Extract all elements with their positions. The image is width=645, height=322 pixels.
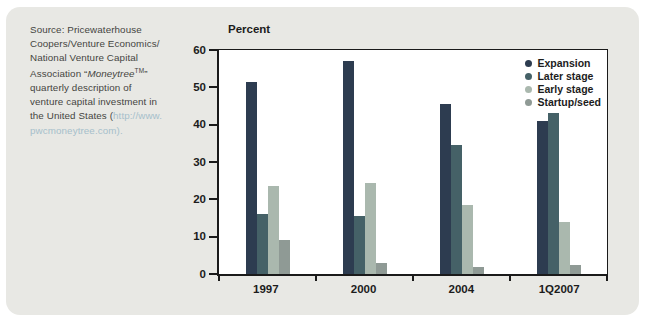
y-tick	[209, 198, 217, 200]
source-text-segment: Source: Pricewaterhouse	[30, 24, 142, 35]
legend-label: Startup/seed	[537, 96, 601, 108]
source-line: quarterly description of	[30, 81, 196, 95]
x-axis-label: 2000	[315, 283, 413, 295]
source-text-segment: venture capital investment in	[30, 96, 157, 107]
bar-early-stage	[462, 205, 473, 274]
source-text-segment: the United States (	[30, 110, 113, 121]
figure-panel: Source: PricewaterhouseCoopers/Venture E…	[6, 7, 639, 315]
source-line: pwcmoneytree.com).	[30, 124, 196, 138]
legend-label: Early stage	[537, 83, 593, 95]
x-tick	[218, 274, 220, 281]
bar-group-1997	[219, 50, 316, 274]
legend-label: Expansion	[537, 57, 590, 69]
y-tick-label: 30	[180, 156, 206, 169]
legend-bullet-icon	[525, 73, 532, 80]
legend-bullet-icon	[525, 99, 532, 106]
y-tick-label: 40	[180, 118, 206, 131]
y-tick	[209, 124, 217, 126]
bar-later-stage	[548, 113, 559, 274]
bar-startup-seed	[279, 240, 290, 274]
legend-item-startup-seed: Startup/seed	[525, 96, 601, 108]
source-text-segment: pwcmoneytree.com	[30, 125, 117, 136]
x-tick	[315, 274, 317, 281]
legend-label: Later stage	[537, 70, 593, 82]
legend-item-later-stage: Later stage	[525, 70, 601, 82]
legend: ExpansionLater stageEarly stageStartup/s…	[525, 57, 601, 108]
bar-expansion	[440, 104, 451, 274]
bar-expansion	[246, 82, 257, 274]
legend-item-early-stage: Early stage	[525, 83, 601, 95]
source-line: National Venture Capital	[30, 51, 196, 65]
source-note: Source: PricewaterhouseCoopers/Venture E…	[30, 23, 196, 138]
y-tick-label: 60	[180, 44, 206, 57]
bar-early-stage	[559, 222, 570, 274]
source-line: Source: Pricewaterhouse	[30, 23, 196, 37]
x-axis-label: 1997	[217, 283, 315, 295]
y-tick	[209, 161, 217, 163]
source-text-segment: Moneytree	[87, 68, 134, 79]
source-text-segment: quarterly description of	[30, 82, 132, 93]
bar-group-2000	[316, 50, 413, 274]
y-tick-label: 10	[180, 230, 206, 243]
y-axis-title: Percent	[228, 23, 270, 35]
bar-later-stage	[451, 145, 462, 274]
bar-group-2004	[413, 50, 510, 274]
legend-item-expansion: Expansion	[525, 57, 601, 69]
y-tick	[209, 236, 217, 238]
source-text-segment: http://www.	[113, 110, 162, 121]
bar-expansion	[537, 121, 548, 274]
legend-bullet-icon	[525, 86, 532, 93]
y-tick-label: 0	[180, 268, 206, 281]
y-tick	[209, 49, 217, 51]
source-text-segment: TM	[135, 67, 145, 74]
source-line: Association “MoneytreeTM”	[30, 66, 196, 81]
bar-later-stage	[257, 214, 268, 274]
y-tick-label: 20	[180, 193, 206, 206]
source-text-segment: ).	[117, 125, 123, 136]
plot-area: 0102030405060 ExpansionLater stageEarly …	[217, 49, 608, 276]
x-axis-label: 2004	[413, 283, 511, 295]
y-tick	[209, 86, 217, 88]
x-tick	[606, 274, 608, 281]
source-text-segment: ”	[144, 68, 147, 79]
bar-startup-seed	[376, 263, 387, 274]
bar-startup-seed	[570, 265, 581, 274]
y-tick-label: 50	[180, 81, 206, 94]
bar-early-stage	[365, 183, 376, 274]
legend-bullet-icon	[525, 60, 532, 67]
x-axis-labels: 1997200020041Q2007	[217, 283, 608, 295]
bar-expansion	[343, 61, 354, 274]
x-tick	[509, 274, 511, 281]
x-tick	[412, 274, 414, 281]
source-line: venture capital investment in	[30, 95, 196, 109]
source-text-segment: Association “	[30, 68, 87, 79]
source-text-segment: National Venture Capital	[30, 52, 138, 63]
source-text-segment: Coopers/Venture Economics/	[30, 38, 159, 49]
source-line: Coopers/Venture Economics/	[30, 37, 196, 51]
bar-later-stage	[354, 216, 365, 274]
bar-early-stage	[268, 186, 279, 274]
bar-startup-seed	[473, 267, 484, 274]
source-line: the United States (http://www.	[30, 109, 196, 123]
y-tick	[209, 273, 217, 275]
x-axis-label: 1Q2007	[510, 283, 608, 295]
